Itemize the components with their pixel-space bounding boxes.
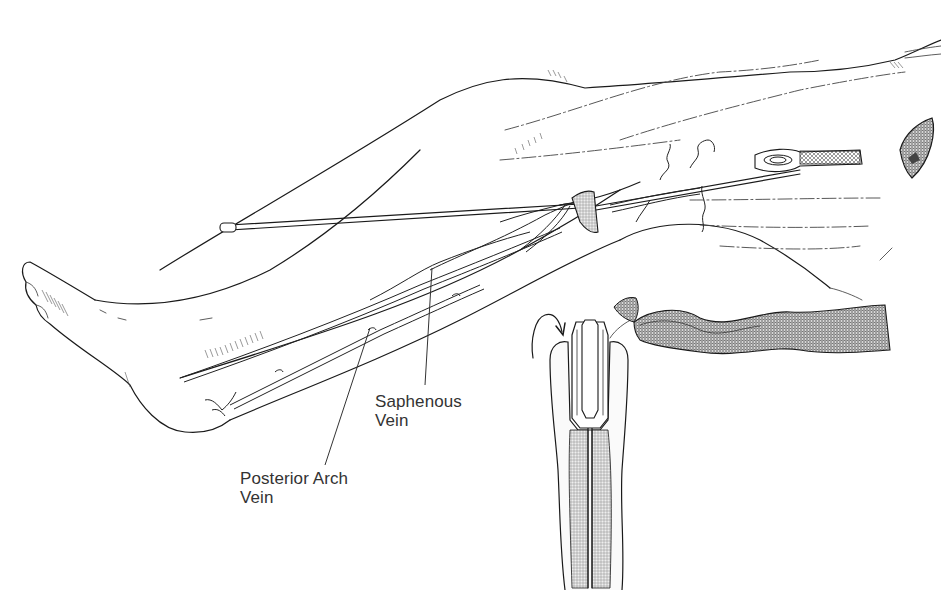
saphenous-vein-label-line1: Saphenous (375, 392, 462, 411)
posterior-arch-vein-label-line2: Vein (240, 488, 348, 507)
saphenous-vein-label-line2: Vein (375, 411, 462, 430)
illustration-canvas (0, 0, 941, 595)
vein-stripper (220, 118, 933, 233)
posterior-arch-vein-label-line1: Posterior Arch (240, 469, 348, 488)
saphenous-vein-leader (425, 268, 432, 385)
inset-detail (532, 297, 890, 590)
saphenous-vein-label: Saphenous Vein (375, 392, 462, 430)
posterior-arch-vein (230, 285, 484, 409)
posterior-arch-vein-label: Posterior Arch Vein (240, 469, 348, 507)
posterior-arch-vein-leader (325, 328, 370, 465)
foot (23, 262, 263, 432)
saphenous-vein (180, 200, 586, 382)
